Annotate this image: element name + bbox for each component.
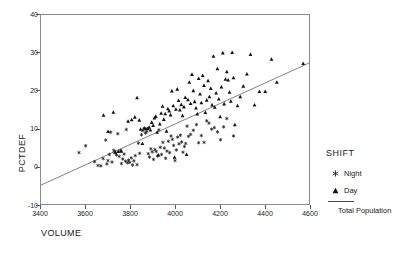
legend-title: SHIFT: [326, 148, 402, 158]
y-axis-tick-label: 10: [10, 125, 38, 132]
x-axis-tick-label: 3400: [20, 210, 60, 217]
data-point-night: [152, 158, 155, 162]
y-axis-tick-label: 40: [10, 11, 38, 18]
data-point-night: [181, 150, 184, 154]
data-point-night: [213, 126, 216, 130]
data-point-night: [192, 129, 195, 133]
data-point-day: [165, 129, 169, 133]
data-point-day: [133, 115, 137, 119]
data-point-night: [175, 148, 178, 152]
x-axis-title: VOLUME: [41, 228, 81, 238]
data-point-night: [130, 156, 133, 160]
data-point-night: [164, 156, 167, 160]
data-point-night: [173, 159, 176, 163]
data-point-night: [140, 133, 143, 137]
data-point-night: [132, 159, 135, 163]
data-point-day: [233, 123, 237, 127]
y-axis-tick-label: -10: [10, 202, 38, 209]
triangle-icon: [326, 187, 344, 194]
data-point-night: [131, 163, 134, 167]
x-axis-tick: [310, 205, 311, 209]
data-point-day: [270, 57, 274, 61]
data-point-day: [198, 92, 202, 96]
data-point-day: [199, 101, 203, 105]
data-point-day: [173, 155, 177, 159]
x-axis-tick-label: 4400: [245, 210, 285, 217]
data-point-night: [163, 146, 166, 150]
data-point-day: [228, 90, 232, 94]
y-axis-tick-label: 30: [10, 49, 38, 56]
data-point-day: [163, 112, 167, 116]
legend-label-day: Day: [344, 186, 357, 195]
data-point-night: [121, 157, 124, 161]
data-point-night: [171, 138, 174, 142]
data-point-day: [191, 89, 195, 93]
data-point-day: [193, 100, 197, 104]
data-point-day: [258, 89, 262, 93]
data-point-day: [190, 72, 194, 76]
data-point-night: [110, 160, 113, 164]
data-point-night: [148, 155, 151, 159]
x-axis-tick-label: 3800: [110, 210, 150, 217]
x-axis-tick-label: 3600: [65, 210, 105, 217]
data-point-day: [212, 54, 216, 58]
data-point-day: [275, 80, 279, 84]
scatter-plot-screenshot: PCTDEF VOLUME SHIFT Night: [0, 0, 402, 254]
data-point-night: [125, 128, 128, 132]
data-point-day: [202, 83, 206, 87]
data-point-day: [220, 85, 224, 89]
x-axis-tick: [220, 205, 221, 209]
data-point-day: [205, 98, 209, 102]
data-point-night: [77, 151, 80, 155]
data-point-day: [141, 142, 145, 146]
y-axis-tick-label: 20: [10, 87, 38, 94]
data-point-day: [185, 153, 189, 157]
data-point-night: [200, 134, 203, 138]
data-point-day: [225, 70, 229, 74]
data-point-day: [111, 110, 115, 114]
data-point-night: [105, 162, 108, 166]
data-point-night: [165, 149, 168, 153]
data-point-night: [197, 141, 200, 145]
data-point-day: [218, 115, 222, 119]
data-point-day: [179, 103, 183, 107]
data-point-night: [116, 132, 119, 136]
x-axis-tick: [265, 205, 266, 209]
x-axis-tick: [85, 205, 86, 209]
data-point-day: [249, 52, 253, 56]
data-point-night: [219, 138, 222, 142]
data-point-day: [263, 89, 267, 93]
legend-item-night: Night: [326, 167, 402, 180]
x-axis-tick: [175, 205, 176, 209]
data-point-day: [183, 95, 187, 99]
data-point-day: [159, 111, 163, 115]
data-point-night: [120, 162, 123, 166]
data-point-day: [236, 104, 240, 108]
x-axis-tick-label: 4000: [155, 210, 195, 217]
data-point-night: [225, 117, 228, 121]
data-point-day: [157, 153, 161, 157]
data-point-day: [139, 127, 143, 131]
data-point-day: [224, 77, 228, 81]
data-point-day: [170, 89, 174, 93]
legend-label-total-population: Total Population: [338, 206, 402, 215]
data-point-day: [161, 104, 165, 108]
data-point-day: [187, 80, 191, 84]
data-point-night: [169, 134, 172, 138]
data-point-day: [169, 113, 173, 117]
legend: SHIFT Night Day: [326, 148, 402, 215]
data-point-night: [161, 141, 164, 145]
data-point-day: [177, 98, 181, 102]
plot-area: [40, 14, 310, 205]
asterisk-icon: [326, 170, 344, 177]
data-point-day: [245, 72, 249, 76]
legend-item-total-population: Total Population: [326, 201, 402, 215]
data-point-day: [174, 107, 178, 111]
data-point-day: [208, 95, 212, 99]
data-point-night: [134, 154, 137, 158]
data-point-day: [162, 117, 166, 121]
regression-line: [41, 63, 309, 185]
data-point-day: [155, 130, 159, 134]
data-point-night: [96, 164, 99, 168]
data-point-night: [159, 146, 162, 150]
